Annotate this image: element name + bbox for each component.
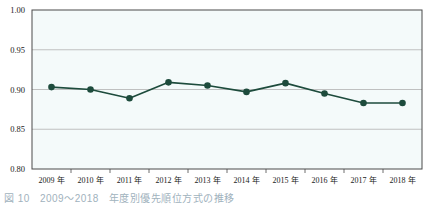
- x-tick-label: 2018 年: [390, 175, 416, 185]
- x-tick-label: 2014 年: [234, 175, 260, 185]
- x-tick-label: 2010 年: [78, 175, 104, 185]
- x-tick-label: 2009 年: [39, 175, 65, 185]
- x-tick-label: 2016 年: [312, 175, 338, 185]
- line-chart: 0.800.850.900.951.00 2009 年2010 年2011 年2…: [0, 0, 442, 185]
- caption-range: 2009～2018: [40, 193, 99, 204]
- x-tick-label: 2012 年: [156, 175, 182, 185]
- chart-svg: 0.800.850.900.951.00 2009 年2010 年2011 年2…: [0, 0, 442, 185]
- y-axis-tick-labels: 0.800.850.900.951.00: [10, 5, 25, 174]
- y-tick-label: 0.90: [10, 85, 25, 95]
- data-point-marker: [126, 95, 133, 102]
- data-point-marker: [243, 89, 250, 96]
- data-point-marker: [282, 80, 289, 87]
- figure-container: 0.800.850.900.951.00 2009 年2010 年2011 年2…: [0, 0, 442, 210]
- data-point-marker: [87, 86, 94, 93]
- y-tick-label: 0.95: [10, 45, 25, 55]
- data-point-marker: [321, 90, 328, 97]
- y-tick-label: 0.80: [10, 164, 25, 174]
- x-axis-tick-labels: 2009 年2010 年2011 年2012 年2013 年2014 年2015…: [39, 175, 416, 185]
- data-point-marker: [399, 100, 406, 107]
- x-axis-ticks: [71, 169, 383, 173]
- data-point-marker: [360, 100, 367, 107]
- x-tick-label: 2015 年: [273, 175, 299, 185]
- data-point-marker: [204, 82, 211, 89]
- y-tick-label: 1.00: [10, 5, 25, 15]
- data-point-marker: [48, 84, 55, 91]
- x-tick-label: 2017 年: [351, 175, 377, 185]
- y-tick-label: 0.85: [10, 124, 25, 134]
- x-tick-label: 2013 年: [195, 175, 221, 185]
- caption-number: 図 10: [4, 193, 30, 204]
- caption-text: 年度別優先順位方式の推移: [109, 193, 235, 204]
- figure-caption: 図 102009～2018年度別優先順位方式の推移: [4, 190, 442, 205]
- x-tick-label: 2011 年: [117, 175, 143, 185]
- data-point-marker: [165, 79, 172, 86]
